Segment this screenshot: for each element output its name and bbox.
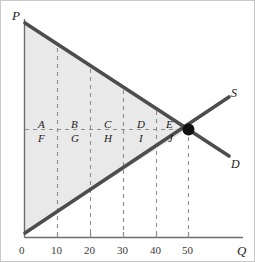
region-label-f: F: [38, 133, 45, 144]
supply-demand-chart: P Q S D 0 10 20 30 40 50 A B C D E F G H…: [0, 0, 255, 262]
y-axis-label: P: [12, 9, 20, 22]
region-label-c: C: [104, 119, 111, 130]
region-label-h: H: [104, 133, 112, 144]
region-label-g: G: [71, 133, 79, 144]
region-label-e: E: [166, 119, 173, 130]
xtick-label-50: 50: [182, 245, 193, 256]
x-axis-label: Q: [237, 244, 246, 257]
xtick-label-10: 10: [51, 245, 62, 256]
x-axis-ticks: [58, 232, 189, 238]
region-label-i: I: [139, 133, 143, 144]
region-label-j: J: [168, 133, 173, 144]
xtick-label-0: 0: [19, 245, 25, 256]
xtick-label-20: 20: [84, 245, 95, 256]
demand-curve-label: D: [231, 158, 240, 170]
region-label-b: B: [71, 119, 78, 130]
region-label-d: D: [137, 119, 145, 130]
region-label-a: A: [38, 119, 45, 130]
equilibrium-point-marker: [183, 124, 195, 136]
supply-curve-label: S: [231, 87, 237, 99]
xtick-label-40: 40: [150, 245, 161, 256]
xtick-label-30: 30: [117, 245, 128, 256]
